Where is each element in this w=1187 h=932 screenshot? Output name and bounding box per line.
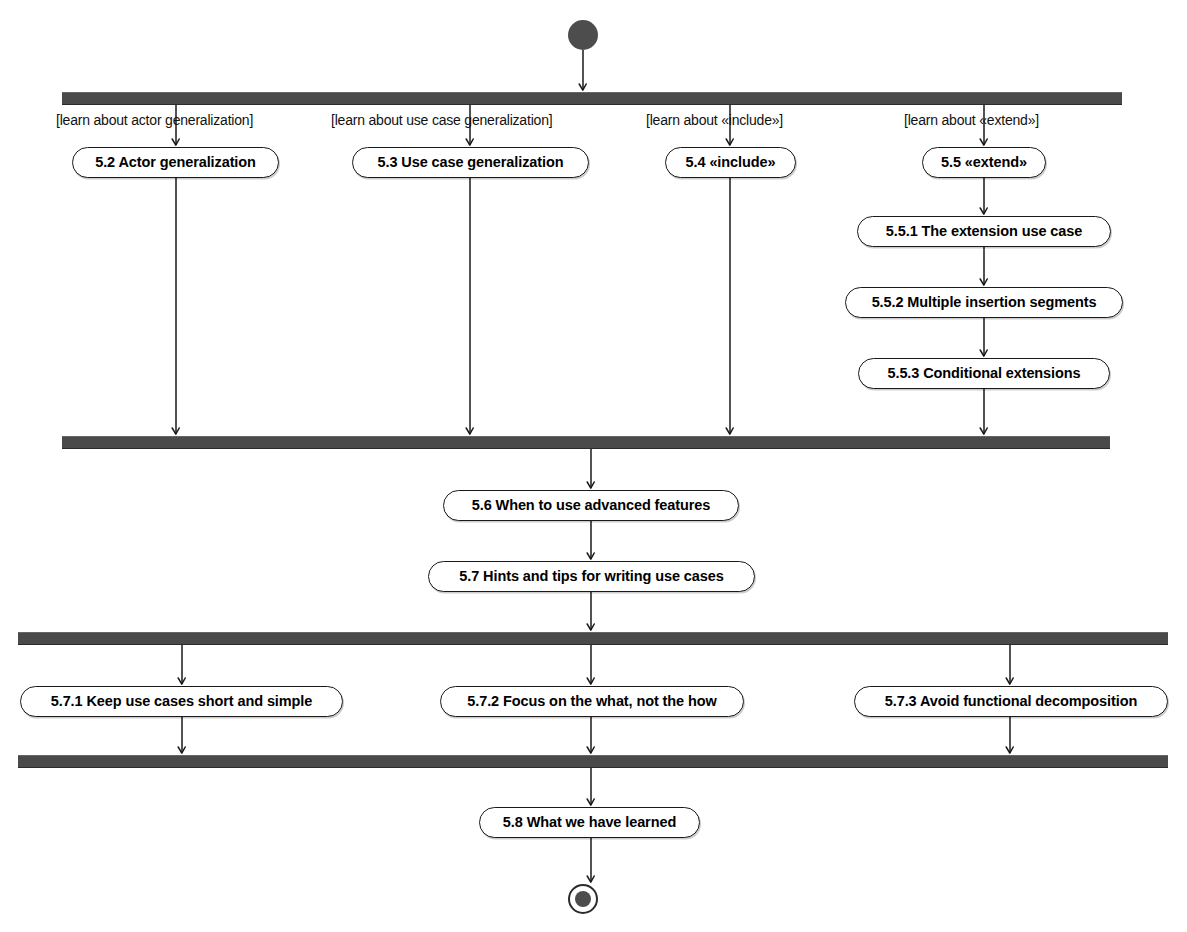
activity-node-a57[interactable]: 5.7 Hints and tips for writing use cases: [428, 561, 755, 592]
join-bar-upper-middle: [62, 436, 1110, 449]
activity-diagram-canvas: [learn about actor generalization][learn…: [0, 0, 1187, 932]
activity-node-a572[interactable]: 5.7.2 Focus on the what, not the how: [440, 686, 744, 717]
guard-label: [learn about «extend»]: [904, 112, 1039, 128]
activity-node-a54[interactable]: 5.4 «include»: [665, 147, 796, 178]
activity-node-a58[interactable]: 5.8 What we have learned: [479, 807, 700, 838]
join-bar-bottom: [18, 755, 1168, 768]
guard-label: [learn about «include»]: [646, 112, 783, 128]
initial-node: [568, 20, 598, 50]
activity-node-a56[interactable]: 5.6 When to use advanced features: [443, 490, 739, 521]
guard-label: [learn about actor generalization]: [56, 112, 253, 128]
activity-node-a571[interactable]: 5.7.1 Keep use cases short and simple: [20, 686, 343, 717]
guard-label: [learn about use case generalization]: [331, 112, 552, 128]
fork-bar-top: [62, 92, 1122, 105]
activity-node-a552[interactable]: 5.5.2 Multiple insertion segments: [845, 287, 1123, 318]
activity-node-a551[interactable]: 5.5.1 The extension use case: [857, 216, 1111, 247]
fork-bar-lower-middle: [18, 632, 1168, 645]
activity-node-a573[interactable]: 5.7.3 Avoid functional decomposition: [854, 686, 1168, 717]
final-node-inner-dot: [575, 891, 591, 907]
edge-layer: [0, 0, 1187, 932]
activity-node-a52[interactable]: 5.2 Actor generalization: [72, 147, 279, 178]
activity-node-a53[interactable]: 5.3 Use case generalization: [352, 147, 589, 178]
activity-node-a553[interactable]: 5.5.3 Conditional extensions: [858, 358, 1110, 389]
final-node: [568, 884, 598, 914]
activity-node-a55[interactable]: 5.5 «extend»: [922, 147, 1046, 178]
